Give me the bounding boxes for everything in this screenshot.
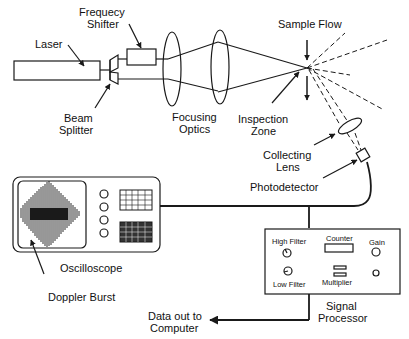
label-collecting-lens-2: Lens <box>276 161 300 173</box>
label-multiplier: Multiplier <box>322 278 352 287</box>
label-focusing-optics-2: Optics <box>179 123 210 135</box>
label-sample-flow: Sample Flow <box>278 18 342 30</box>
laser-body <box>14 61 100 80</box>
scope-button-grid-top[interactable] <box>120 190 152 210</box>
label-high-filter: High Filter <box>272 237 306 246</box>
label-signal-processor-2: Processor <box>318 312 368 324</box>
collecting-lens <box>336 115 364 137</box>
label-collecting-lens-1: Collecting <box>263 149 311 161</box>
focusing-lens-2 <box>211 30 229 104</box>
label-doppler-burst: Doppler Burst <box>48 291 115 303</box>
label-signal-processor-1: Signal <box>326 300 357 312</box>
label-counter: Counter <box>326 234 353 243</box>
label-focusing-optics-1: Focusing <box>172 111 217 123</box>
label-beam-splitter-1: Beam <box>64 112 93 124</box>
label-data-out-2: Computer <box>150 322 198 334</box>
label-frequency-shifter-2: Shifter <box>87 18 119 30</box>
label-oscilloscope: Oscilloscope <box>60 262 122 274</box>
frequency-shifter-box <box>127 49 156 65</box>
ldv-diagram <box>0 0 409 339</box>
scope-button-grid-bottom[interactable] <box>120 222 152 242</box>
label-inspection-zone-2: Zone <box>251 125 276 137</box>
label-inspection-zone-1: Inspection <box>238 113 288 125</box>
label-gain: Gain <box>369 238 385 247</box>
label-data-out-1: Data out to <box>148 310 202 322</box>
label-photodetector: Photodetector <box>250 181 319 193</box>
label-beam-splitter-2: Splitter <box>59 124 93 136</box>
focusing-lens-1 <box>163 32 181 106</box>
label-laser: Laser <box>35 38 63 50</box>
beam-splitter <box>110 55 118 84</box>
photodetector <box>356 148 370 162</box>
label-frequency-shifter-1: Frequecy <box>79 6 125 18</box>
label-low-filter: Low Filter <box>273 280 306 289</box>
